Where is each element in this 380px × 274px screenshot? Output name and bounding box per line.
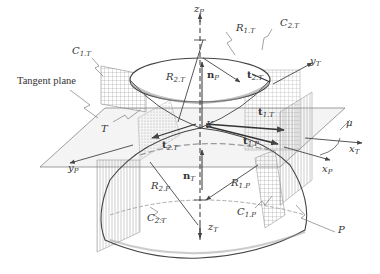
section-c2t-right: [280, 92, 312, 205]
label-r2p: R2.P: [151, 181, 170, 193]
label-mu: μ: [346, 118, 353, 128]
label-c1p: C1.P: [237, 207, 256, 219]
leader-c2t-top: [262, 29, 272, 50]
label-yt: yT: [310, 56, 320, 68]
label-t2t-left: t2.T: [162, 140, 178, 152]
label-r1p: R1.P: [231, 178, 250, 190]
label-c1t: C1.T: [72, 46, 91, 58]
leader-p: [296, 205, 335, 232]
label-t2t-top: t2.T: [247, 70, 263, 82]
label-t: T: [101, 124, 108, 134]
leader-tangent-plane: [70, 90, 98, 118]
label-nt: nT: [183, 171, 195, 183]
label-c2t-top: C2.T: [280, 18, 299, 30]
label-t1p: t1.P: [243, 136, 259, 148]
diagram-canvas: zP R1.T C2.T C1.T Tangent plane R2.T nP …: [0, 0, 380, 274]
section-c2t-left: [97, 160, 140, 252]
diagram-drawing: [0, 0, 380, 274]
label-zt: zT: [208, 222, 218, 234]
label-r2t: R2.T: [166, 72, 185, 84]
label-zp: zP: [194, 4, 204, 16]
label-yp: yP: [68, 163, 78, 175]
label-xp: xP: [322, 164, 332, 176]
label-t1t: t1.T: [258, 107, 274, 119]
label-c2t-bottom: C2.T: [147, 213, 166, 225]
label-np: nP: [207, 70, 219, 82]
label-xt: xT: [349, 144, 359, 156]
label-k: K: [206, 120, 213, 130]
label-p: P: [338, 225, 345, 235]
label-r1t: R1.T: [236, 23, 255, 35]
label-tangent-plane: Tangent plane: [17, 76, 76, 87]
leader-r1t: [226, 32, 235, 55]
